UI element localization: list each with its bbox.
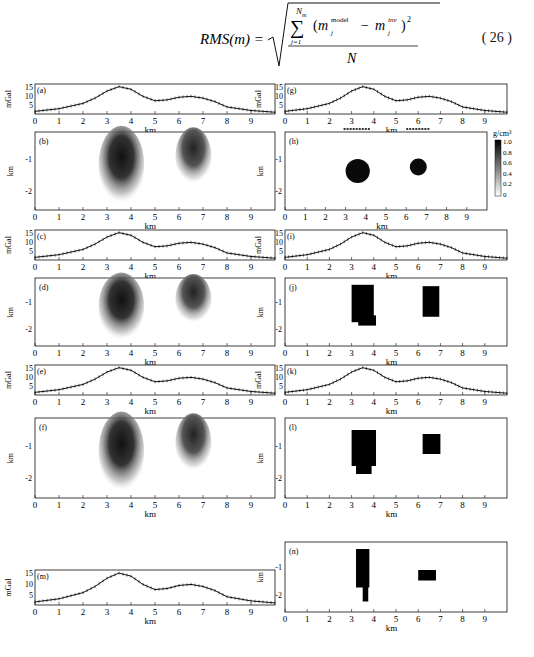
svg-text:6: 6 bbox=[177, 116, 182, 126]
svg-text:4: 4 bbox=[129, 500, 134, 510]
svg-text:9: 9 bbox=[465, 212, 470, 222]
svg-text:9: 9 bbox=[249, 607, 254, 617]
svg-text:-2: -2 bbox=[25, 187, 32, 196]
gravity-panel-m: (m)15105mGal0123456789km bbox=[4, 569, 275, 626]
svg-text:4: 4 bbox=[129, 607, 134, 617]
svg-text:8: 8 bbox=[460, 348, 465, 358]
x-axis-label: km bbox=[386, 406, 398, 416]
svg-text:1: 1 bbox=[303, 212, 308, 222]
svg-text:1: 1 bbox=[57, 116, 62, 126]
svg-text:7: 7 bbox=[201, 348, 206, 358]
svg-text:4: 4 bbox=[364, 212, 369, 222]
equation-number: ( 26 ) bbox=[482, 30, 512, 46]
svg-text:3: 3 bbox=[105, 348, 110, 358]
svg-text:7: 7 bbox=[201, 500, 206, 510]
svg-text:0: 0 bbox=[283, 262, 288, 272]
svg-text:1: 1 bbox=[57, 500, 62, 510]
svg-text:4: 4 bbox=[372, 116, 377, 126]
x-axis-label: km bbox=[144, 406, 156, 416]
svg-text:0: 0 bbox=[283, 212, 288, 222]
svg-text:1: 1 bbox=[305, 614, 310, 624]
svg-text:8: 8 bbox=[225, 116, 230, 126]
eq-sub-j: j bbox=[330, 29, 333, 37]
svg-text:1: 1 bbox=[305, 116, 310, 126]
equation-rms: RMS(m) = N m ∑ j=1 ( m model j − m inv j… bbox=[0, 0, 534, 80]
svg-text:0: 0 bbox=[33, 348, 38, 358]
svg-text:3: 3 bbox=[349, 348, 354, 358]
svg-text:0: 0 bbox=[33, 607, 38, 617]
svg-text:km: km bbox=[6, 306, 15, 317]
gravity-panel-a: (a)15105mGal0123456789km bbox=[4, 83, 275, 135]
svg-text:6: 6 bbox=[177, 262, 182, 272]
svg-text:1: 1 bbox=[57, 397, 62, 407]
svg-text:1: 1 bbox=[57, 212, 62, 222]
svg-text:2: 2 bbox=[327, 397, 332, 407]
svg-text:1: 1 bbox=[57, 348, 62, 358]
x-axis-label: km bbox=[144, 357, 156, 367]
svg-text:3: 3 bbox=[349, 614, 354, 624]
svg-text:10: 10 bbox=[275, 238, 283, 247]
svg-text:-2: -2 bbox=[25, 474, 32, 483]
svg-text:4: 4 bbox=[372, 500, 377, 510]
svg-text:(g): (g) bbox=[287, 86, 297, 95]
svg-text:8: 8 bbox=[460, 116, 465, 126]
svg-text:9: 9 bbox=[249, 500, 254, 510]
svg-text:8: 8 bbox=[225, 212, 230, 222]
svg-text:0.8: 0.8 bbox=[503, 149, 512, 157]
svg-text:km: km bbox=[256, 571, 265, 582]
svg-text:0: 0 bbox=[33, 116, 38, 126]
svg-text:0: 0 bbox=[283, 614, 288, 624]
colorbar: g/cm³1.00.80.60.40.20 bbox=[493, 129, 512, 199]
svg-text:3: 3 bbox=[105, 607, 110, 617]
svg-text:-1: -1 bbox=[25, 298, 32, 307]
svg-text:km: km bbox=[6, 165, 15, 176]
svg-text:3: 3 bbox=[105, 397, 110, 407]
svg-text:(m): (m) bbox=[37, 572, 49, 581]
svg-text:2: 2 bbox=[81, 262, 86, 272]
svg-text:8: 8 bbox=[225, 500, 230, 510]
svg-text:1: 1 bbox=[305, 262, 310, 272]
svg-text:10: 10 bbox=[25, 373, 33, 382]
svg-text:6: 6 bbox=[177, 397, 182, 407]
svg-text:9: 9 bbox=[483, 348, 488, 358]
svg-text:(a): (a) bbox=[37, 86, 46, 95]
svg-text:(i): (i) bbox=[287, 232, 295, 241]
svg-text:6: 6 bbox=[177, 607, 182, 617]
svg-text:8: 8 bbox=[460, 397, 465, 407]
svg-text:8: 8 bbox=[460, 262, 465, 272]
svg-text:5: 5 bbox=[279, 382, 283, 391]
svg-text:6: 6 bbox=[177, 500, 182, 510]
svg-text:7: 7 bbox=[438, 262, 443, 272]
svg-text:7: 7 bbox=[438, 348, 443, 358]
svg-text:15: 15 bbox=[275, 364, 283, 373]
eq-sum-bottom: j=1 bbox=[290, 38, 301, 46]
svg-text:9: 9 bbox=[483, 116, 488, 126]
svg-text:2: 2 bbox=[81, 212, 86, 222]
svg-text:7: 7 bbox=[438, 500, 443, 510]
svg-text:3: 3 bbox=[105, 212, 110, 222]
svg-text:-2: -2 bbox=[275, 591, 282, 600]
svg-text:10: 10 bbox=[275, 373, 283, 382]
svg-text:4: 4 bbox=[372, 262, 377, 272]
svg-text:7: 7 bbox=[201, 607, 206, 617]
svg-text:0: 0 bbox=[33, 500, 38, 510]
eq-power: 2 bbox=[407, 15, 411, 24]
svg-text:mGal: mGal bbox=[254, 370, 263, 389]
svg-text:7: 7 bbox=[201, 397, 206, 407]
svg-text:2: 2 bbox=[323, 212, 328, 222]
svg-text:4: 4 bbox=[372, 348, 377, 358]
svg-text:-1: -1 bbox=[275, 442, 282, 451]
svg-text:(c): (c) bbox=[37, 232, 46, 241]
svg-text:8: 8 bbox=[225, 607, 230, 617]
svg-text:3: 3 bbox=[349, 116, 354, 126]
eq-sub-j-2: j bbox=[387, 29, 390, 37]
svg-text:10: 10 bbox=[25, 92, 33, 101]
svg-text:7: 7 bbox=[438, 397, 443, 407]
svg-text:-1: -1 bbox=[25, 442, 32, 451]
svg-text:8: 8 bbox=[225, 262, 230, 272]
svg-text:4: 4 bbox=[129, 212, 134, 222]
svg-text:5: 5 bbox=[279, 101, 283, 110]
svg-text:1: 1 bbox=[305, 348, 310, 358]
svg-text:km: km bbox=[256, 306, 265, 317]
svg-text:7: 7 bbox=[438, 614, 443, 624]
